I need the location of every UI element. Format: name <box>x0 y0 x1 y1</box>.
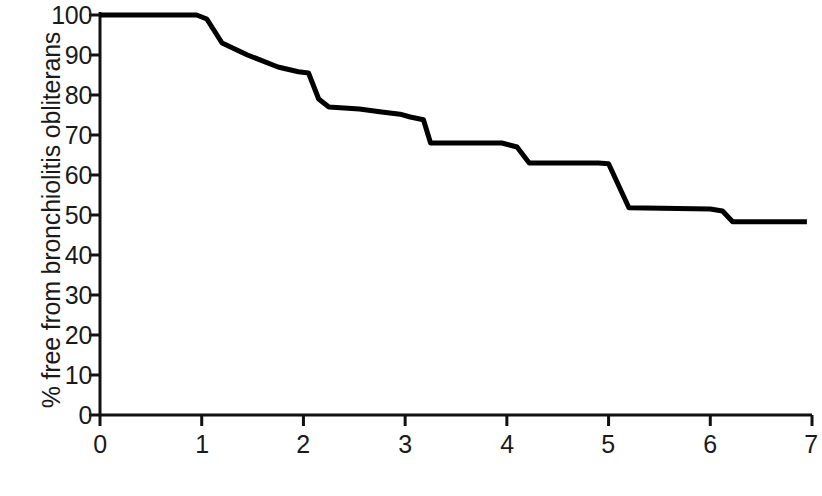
survival-curve-line <box>100 15 807 222</box>
x-tick-label: 3 <box>385 432 425 457</box>
y-tick-label: 30 <box>30 283 92 308</box>
y-tick-label: 10 <box>30 363 92 388</box>
y-tick-label: 0 <box>30 403 92 428</box>
y-tick-label: 60 <box>30 163 92 188</box>
x-tick-label: 4 <box>487 432 527 457</box>
axis-lines <box>100 12 812 415</box>
y-tick-label: 50 <box>30 203 92 228</box>
x-tick-label: 7 <box>791 432 822 457</box>
x-tick-label: 2 <box>283 432 323 457</box>
x-tick-label: 6 <box>690 432 730 457</box>
x-tick-label: 0 <box>80 432 120 457</box>
x-tick-label: 1 <box>182 432 222 457</box>
y-axis-tick-labels: 100 90 80 70 60 50 40 30 20 10 0 <box>20 0 92 430</box>
x-axis-ticks <box>100 415 812 426</box>
x-tick-label: 5 <box>588 432 628 457</box>
y-tick-label: 100 <box>30 3 92 28</box>
y-tick-label: 90 <box>30 43 92 68</box>
y-tick-label: 40 <box>30 243 92 268</box>
y-tick-label: 20 <box>30 323 92 348</box>
y-tick-label: 80 <box>30 83 92 108</box>
y-tick-label: 70 <box>30 123 92 148</box>
